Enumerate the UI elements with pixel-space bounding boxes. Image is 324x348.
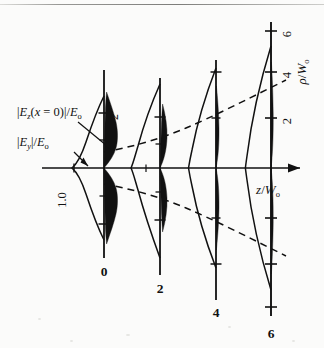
station-z6-ez-filled (271, 62, 273, 168)
station-z0 (72, 70, 118, 258)
z-station-label-2: 2 (157, 281, 164, 296)
rho-tick-label-6: 6 (280, 31, 294, 37)
rho-axis-label: ρ/Wo (294, 60, 311, 86)
z-axis (42, 164, 300, 173)
svg-text:z/Wo: z/Wo (255, 182, 280, 199)
ey-annotation-label: |Ey|/Eo (17, 135, 49, 151)
station-z4 (189, 60, 222, 300)
rho-tick-label-2: 2 (280, 118, 294, 124)
ey-annotation-arrowhead (81, 158, 89, 167)
z-station-label-6: 6 (268, 326, 275, 341)
svg-text:2: 2 (107, 114, 121, 120)
ez-annotation-label: |Ez(x = 0)|/Eo (17, 105, 82, 121)
z-station-label-4: 4 (213, 305, 220, 320)
station-z0-ez-filled-lower (104, 168, 118, 244)
station-z0-tick-label: 2 (107, 114, 121, 120)
svg-text:ρ/Wo: ρ/Wo (294, 60, 311, 86)
z-station-label-0: 0 (101, 264, 108, 279)
z-axis-label: z/Wo (255, 182, 280, 199)
station-z4-ez-filled (216, 86, 219, 168)
station-z0-ez-filled (104, 92, 118, 168)
station-z2-ez-filled-lower (160, 168, 167, 232)
z-station-labels: 0 2 4 6 (101, 264, 275, 341)
station-z2 (131, 78, 167, 275)
origin-marker-label: 1.0 (55, 192, 69, 208)
rho-tick-labels: 6 4 2 (280, 31, 294, 124)
rho-tick-label-4: 4 (280, 71, 294, 78)
gaussian-beam-figure: z/Wo 6 4 2 ρ/Wo (0, 0, 324, 348)
station-z2-ez-filled (160, 104, 167, 168)
svg-text:1.0: 1.0 (55, 192, 69, 208)
station-z4-ez-filled-lower (216, 168, 219, 250)
